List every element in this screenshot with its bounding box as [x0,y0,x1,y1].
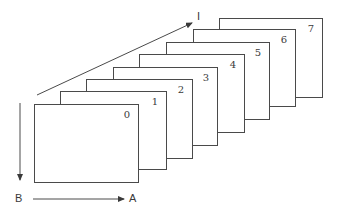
depth-axis-label: I [197,10,200,22]
horizontal-axis-label: A [129,192,136,204]
frame-number-label: 1 [152,96,158,107]
stacked-frames-diagram: 76543210 I B A [0,0,342,216]
frame-number-label: 4 [230,59,236,70]
frame-number-label: 2 [178,84,184,95]
frame-0: 0 [34,104,139,183]
frame-number-label: 3 [203,72,209,83]
frame-number-label: 6 [281,34,287,45]
frame-number-label: 5 [255,47,261,58]
vertical-axis-label: B [15,192,22,204]
frame-number-label: 0 [124,109,130,120]
frame-number-label: 7 [308,23,314,34]
